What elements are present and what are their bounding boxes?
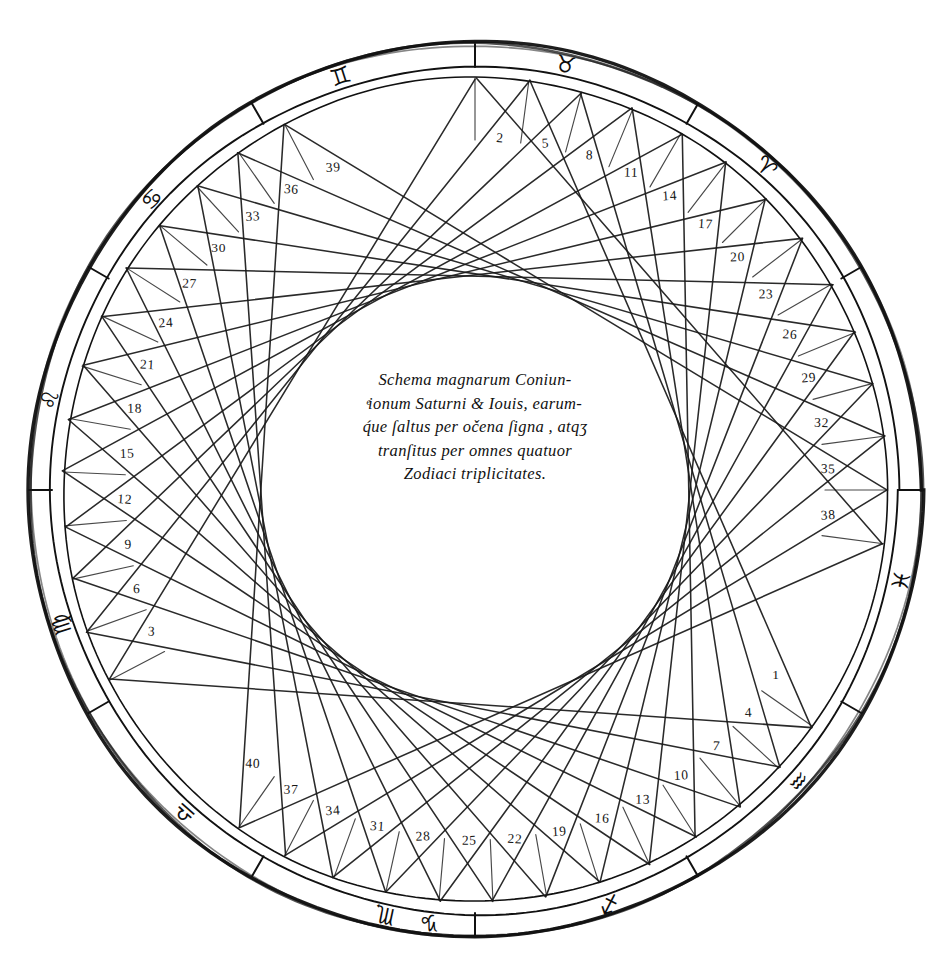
conjunction-number: 22	[507, 831, 523, 847]
conjunction-radius	[663, 785, 696, 837]
conjunction-radius	[762, 691, 813, 727]
conjunction-number: 6	[133, 581, 141, 596]
conjunction-number: 21	[140, 357, 156, 373]
conjunction-radius	[822, 436, 883, 444]
conjunction-number: 40	[245, 756, 260, 771]
conjunction-number: 38	[820, 507, 836, 523]
zodiac-glyph-libra: ♎	[168, 797, 201, 830]
conjunction-radius	[580, 824, 599, 883]
conjunction-chord	[238, 153, 885, 436]
conjunction-number: 33	[245, 208, 261, 224]
conjunction-number: 32	[814, 415, 829, 431]
conjunction-number: 11	[624, 165, 639, 180]
zodiac-glyph-capricorn: ♑	[418, 909, 441, 937]
zodiac-glyph-scorpio: ♏	[372, 901, 398, 931]
conjunction-number: 8	[586, 147, 594, 162]
zodiac-glyph-sagittarius: ♐	[596, 888, 624, 919]
zodiac-glyph-labels: ♈♉♊♋♌♍♎♏♐♑♒♓	[35, 50, 916, 937]
conjunction-chord	[682, 134, 695, 836]
conjunction-number: 4	[744, 705, 752, 720]
conjunction-number: 2	[496, 130, 504, 145]
conjunction-number: 31	[370, 818, 386, 834]
conjunction-number: 12	[117, 491, 133, 507]
conjunction-number: 14	[662, 188, 678, 204]
sign-division-spokes	[29, 44, 921, 936]
conjunction-number: 3	[148, 623, 156, 638]
conjunction-number: 24	[158, 315, 174, 331]
conjunction-radius	[609, 109, 633, 166]
conjunction-chord	[198, 186, 333, 878]
conjunction-number: 5	[541, 135, 549, 150]
conjunction-chord	[126, 268, 833, 285]
sign-division-tick	[687, 856, 699, 876]
conjunction-chord	[440, 332, 854, 901]
conjunction-radius	[822, 536, 883, 544]
conjunction-number: 29	[801, 370, 817, 386]
sign-division-tick	[841, 702, 861, 714]
conjunction-chord	[386, 384, 873, 892]
conjunction-number: 25	[462, 833, 477, 848]
conjunction-number: 15	[119, 445, 135, 461]
conjunction-radius	[239, 153, 275, 204]
conjunction-number: 26	[782, 326, 798, 342]
sign-division-tick	[89, 702, 109, 714]
zodiac-glyph-aquarius: ♒	[782, 765, 815, 798]
conjunction-number: 37	[283, 782, 298, 797]
sign-division-tick	[252, 104, 264, 124]
conjunction-radius	[813, 383, 873, 399]
conjunction-chord	[240, 544, 883, 828]
conjunction-chord	[546, 238, 803, 896]
zodiac-glyph-aries: ♈	[750, 150, 783, 183]
zodiac-glyph-cancer: ♋	[135, 183, 168, 216]
conjunction-number: 1	[772, 667, 779, 682]
conjunction-chord	[62, 134, 682, 471]
conjunction-chord	[101, 238, 802, 316]
conjunction-number: 16	[594, 810, 610, 826]
conjunction-number: 23	[758, 286, 773, 301]
zodiac-glyph-pisces: ♓	[886, 568, 916, 594]
conjunction-diagram-canvas: 1234567891011121314151617181920212223242…	[0, 0, 951, 978]
zodiac-ring-band	[28, 41, 924, 937]
conjunction-number: 10	[673, 767, 689, 783]
conjunction-chord	[632, 108, 740, 807]
conjunction-number: 18	[127, 401, 142, 416]
sign-division-tick	[687, 104, 699, 124]
conjunction-chord	[87, 80, 530, 632]
conjunction-number: 13	[635, 792, 650, 807]
conjunction-radius	[63, 472, 125, 475]
conjunction-number: 7	[712, 738, 720, 753]
conjunction-number: 19	[551, 823, 567, 839]
sign-division-tick	[89, 267, 109, 279]
conjunction-number: 20	[730, 249, 745, 264]
conjunction-chord	[126, 268, 440, 901]
conjunction-radius	[798, 332, 855, 356]
conjunction-number: 27	[182, 276, 198, 292]
conjunction-number: 34	[325, 802, 341, 818]
zodiac-glyph-taurus: ♉	[553, 50, 579, 80]
conjunction-radius	[439, 839, 444, 901]
conjunction-radius	[73, 566, 134, 579]
conjunction-number: 35	[821, 461, 836, 476]
conjunction-chord	[110, 679, 812, 728]
conjunction-number: 9	[124, 536, 132, 551]
kepler-conjunction-figure: 1234567891011121314151617181920212223242…	[0, 0, 951, 978]
sign-division-tick	[841, 267, 861, 279]
conjunction-chord	[649, 162, 725, 864]
sign-division-tick	[252, 856, 264, 876]
conjunction-chord	[492, 285, 833, 901]
conjunction-number: 30	[211, 240, 226, 255]
conjunction-number: 36	[283, 181, 299, 197]
conjunction-radius	[650, 133, 681, 187]
conjunction-number: 28	[415, 828, 430, 844]
zodiac-glyph-virgo: ♍	[46, 611, 77, 639]
zodiac-glyph-leo: ♌	[35, 387, 65, 413]
conjunction-radius	[386, 832, 399, 893]
conjunction-number: 17	[698, 216, 714, 232]
conjunction-number: 39	[325, 159, 341, 175]
conjunction-chord	[87, 632, 780, 767]
conjunction-radius	[82, 366, 141, 385]
conjunction-chord	[160, 226, 855, 332]
conjunction-radius	[688, 163, 726, 212]
conjunction-radius	[490, 840, 493, 902]
